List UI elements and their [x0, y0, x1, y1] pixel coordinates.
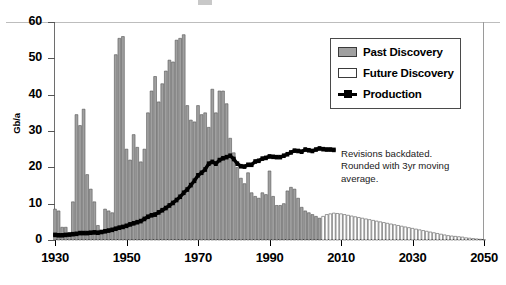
production-marker	[332, 148, 336, 153]
title-remnant	[198, 0, 212, 5]
chart-annotation: Revisions backdated. Rounded with 3yr mo…	[341, 148, 473, 185]
production-marker	[107, 228, 111, 233]
past-discovery-swatch-icon	[338, 47, 357, 57]
production-marker	[160, 208, 164, 213]
production-marker	[153, 212, 157, 217]
x-tick-label: 1990	[242, 250, 298, 265]
production-marker	[157, 210, 161, 215]
production-marker	[296, 149, 300, 154]
production-marker	[117, 225, 121, 230]
production-marker	[246, 162, 250, 167]
production-marker	[189, 183, 193, 188]
production-marker	[293, 148, 297, 153]
y-tick-mark	[48, 22, 55, 23]
production-marker	[60, 233, 64, 238]
y-tick-mark	[48, 204, 55, 205]
production-marker	[92, 230, 96, 235]
production-marker	[125, 224, 129, 229]
production-marker	[168, 203, 172, 208]
future-discovery-swatch-icon	[338, 68, 357, 78]
production-marker	[268, 154, 272, 159]
legend-item-production: Production	[338, 86, 422, 102]
x-tick-label: 2050	[456, 250, 506, 265]
production-marker	[282, 153, 286, 158]
production-marker	[150, 213, 154, 218]
production-marker	[78, 231, 82, 236]
production-marker	[132, 221, 136, 226]
legend-item-future-discovery: Future Discovery	[338, 65, 454, 81]
x-tick-mark	[270, 240, 271, 246]
production-marker	[218, 158, 222, 163]
production-marker	[318, 146, 322, 151]
production-marker	[57, 233, 61, 238]
x-tick-mark	[127, 240, 128, 246]
production-marker	[53, 233, 57, 238]
production-marker	[275, 155, 279, 160]
production-marker	[128, 222, 132, 227]
x-tick-mark	[413, 240, 414, 246]
production-marker	[311, 149, 315, 154]
production-marker	[214, 161, 218, 166]
production-marker	[225, 155, 229, 160]
legend-label-production: Production	[363, 88, 422, 100]
discovery-production-chart: Gb/a 0102030405060 193019501970199020102…	[0, 0, 506, 285]
y-tick-mark	[48, 167, 55, 168]
production-marker	[67, 232, 71, 237]
production-marker	[71, 232, 75, 237]
production-marker	[100, 230, 104, 235]
x-tick-label: 1930	[27, 250, 83, 265]
production-marker	[239, 164, 243, 169]
production-marker	[82, 231, 86, 236]
production-marker	[193, 178, 197, 183]
production-marker	[175, 198, 179, 203]
chart-legend: Past Discovery Future Discovery Producti…	[330, 38, 461, 109]
legend-label-future-discovery: Future Discovery	[363, 67, 454, 79]
y-tick-label: 10	[8, 197, 42, 210]
production-marker	[135, 220, 139, 225]
production-marker	[278, 155, 282, 160]
legend-label-past-discovery: Past Discovery	[363, 46, 443, 58]
y-tick-mark	[48, 95, 55, 96]
annotation-line-2: Rounded with 3yr moving	[341, 160, 473, 172]
production-marker	[171, 201, 175, 206]
production-marker	[321, 147, 325, 152]
production-marker	[139, 219, 143, 224]
production-marker	[75, 232, 79, 237]
y-tick-label: 40	[8, 88, 42, 101]
production-marker	[178, 194, 182, 199]
production-marker	[253, 159, 257, 164]
production-marker	[307, 148, 311, 153]
x-tick-mark	[198, 240, 199, 246]
x-tick-mark	[55, 240, 56, 246]
production-marker	[210, 160, 214, 165]
production-marker	[235, 161, 239, 166]
y-tick-mark	[48, 58, 55, 59]
x-tick-label: 1970	[170, 250, 226, 265]
production-marker	[303, 147, 307, 152]
production-marker	[250, 162, 254, 167]
x-tick-mark	[341, 240, 342, 246]
production-marker	[142, 217, 146, 222]
production-marker	[182, 190, 186, 195]
production-marker	[203, 167, 207, 172]
production-marker	[300, 149, 304, 154]
production-marker	[103, 229, 107, 234]
production-marker	[257, 158, 261, 163]
production-line-swatch-icon	[338, 89, 357, 99]
production-marker	[164, 206, 168, 211]
y-tick-label: 30	[8, 124, 42, 137]
production-marker	[328, 147, 332, 152]
y-tick-label: 0	[8, 233, 42, 246]
annotation-line-1: Revisions backdated.	[341, 148, 473, 160]
y-tick-label: 60	[8, 15, 42, 28]
production-marker	[121, 225, 125, 230]
production-marker	[185, 187, 189, 192]
production-marker	[207, 161, 211, 166]
production-marker	[110, 228, 114, 233]
production-marker	[114, 226, 118, 231]
production-marker	[325, 147, 329, 152]
production-marker	[85, 231, 89, 236]
x-tick-label: 1950	[99, 250, 155, 265]
legend-item-past-discovery: Past Discovery	[338, 44, 443, 60]
x-tick-label: 2010	[313, 250, 369, 265]
